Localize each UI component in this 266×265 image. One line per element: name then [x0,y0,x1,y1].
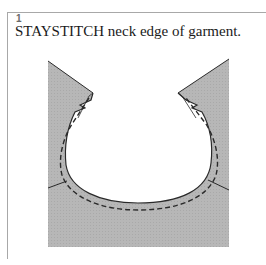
neck-edge [65,93,211,203]
garment-fabric [48,59,229,247]
neckline-illustration [0,0,266,265]
